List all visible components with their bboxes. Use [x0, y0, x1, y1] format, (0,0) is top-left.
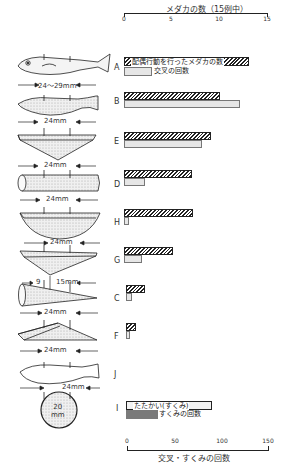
offset-triangle-g — [20, 245, 97, 275]
top-tick-5: 5 — [169, 15, 173, 22]
bar-h-mating — [124, 209, 193, 217]
triangular-prism-e — [18, 128, 96, 160]
bar-e-crossing — [124, 140, 202, 148]
dimension-label-f: 24mm — [44, 346, 67, 354]
legend-crossing-label: 交叉の回数 — [154, 67, 189, 75]
dimension-label-i: 20 mm — [51, 403, 65, 419]
bar-f-mating — [126, 323, 136, 331]
bar-d-mating — [124, 170, 192, 178]
bar-g-crossing — [124, 255, 142, 263]
bar-g-mating — [124, 247, 173, 255]
dimension-label-j: 24mm — [62, 383, 85, 391]
top-axis-tick — [267, 13, 268, 17]
dimension-label-g-left: 9 — [36, 278, 40, 286]
bar-f-crossing — [126, 331, 130, 339]
bar-i-fight: たたかい(すくみ) — [126, 401, 212, 410]
top-tick-10: 10 — [215, 15, 223, 22]
bottom-axis-title: 交叉・すくみの回数 — [158, 452, 230, 463]
bar-a-crossing — [124, 67, 152, 76]
fish-model-a — [18, 54, 110, 75]
top-axis-tick — [124, 13, 125, 17]
bar-c-crossing — [126, 293, 132, 301]
dimension-label-c: 24mm — [44, 308, 67, 316]
top-axis-line — [124, 13, 268, 14]
bar-i-freeze — [126, 410, 158, 419]
dimension-label-h: 24mm — [50, 238, 73, 246]
dimension-label-d: 24mm — [46, 195, 69, 203]
legend-mating-label: 配偶行動を行ったメダカの数 — [131, 58, 224, 66]
bar-b-mating — [124, 92, 220, 100]
bottom-tick-50: 50 — [171, 437, 179, 444]
legend-freeze-label: すくみの回数 — [159, 410, 201, 418]
bottom-tick-150: 150 — [262, 437, 273, 444]
dimension-label-a: 24～29mm — [38, 80, 76, 90]
bottom-axis-line — [127, 450, 269, 451]
bar-d-crossing — [124, 178, 145, 186]
flat-fish-outline-j — [20, 362, 99, 384]
bar-a-mating: 配偶行動を行ったメダカの数 — [124, 57, 249, 66]
dimension-label-b: 24mm — [44, 117, 67, 125]
bar-b-crossing — [124, 100, 240, 108]
fish-silhouette-b — [18, 95, 98, 115]
bar-e-mating — [124, 132, 211, 140]
dimension-label-g-right: 15mm — [56, 278, 79, 286]
bar-h-crossing — [124, 217, 129, 225]
bar-c-mating — [126, 285, 145, 293]
half-disk-h — [20, 207, 100, 239]
dimension-label-e: 24mm — [44, 161, 67, 169]
bottom-tick-0: 0 — [125, 437, 129, 444]
wedge-f — [18, 320, 97, 340]
legend-fight-label: たたかい(すくみ) — [133, 402, 189, 410]
bottom-tick-100: 100 — [216, 437, 227, 444]
cylinder-d — [18, 170, 100, 191]
